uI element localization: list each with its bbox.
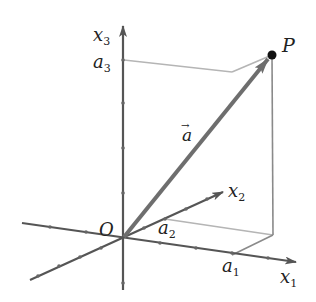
x3-axis-label: x3 bbox=[93, 24, 110, 48]
vector-arrow-accent-icon: → bbox=[181, 120, 190, 131]
guide-base-to-a1 bbox=[232, 235, 273, 255]
vector-diagram: O x3 a3 x2 a2 a1 x1 P a → bbox=[0, 0, 316, 302]
guide-lines-dark bbox=[232, 55, 273, 255]
vector-a bbox=[124, 59, 268, 237]
point-p-label: P bbox=[281, 34, 296, 56]
guide-a2-to-base bbox=[165, 219, 273, 235]
x3-axis bbox=[121, 26, 125, 290]
a3-label: a3 bbox=[93, 51, 111, 75]
x2-axis-label: x2 bbox=[228, 180, 245, 204]
guide-p-vertical bbox=[272, 55, 273, 235]
a1-label: a1 bbox=[222, 255, 240, 279]
guide-a3-to-top bbox=[124, 60, 232, 72]
point-p bbox=[268, 51, 277, 60]
x1-axis-label: x1 bbox=[280, 266, 297, 290]
origin-label: O bbox=[99, 219, 114, 240]
